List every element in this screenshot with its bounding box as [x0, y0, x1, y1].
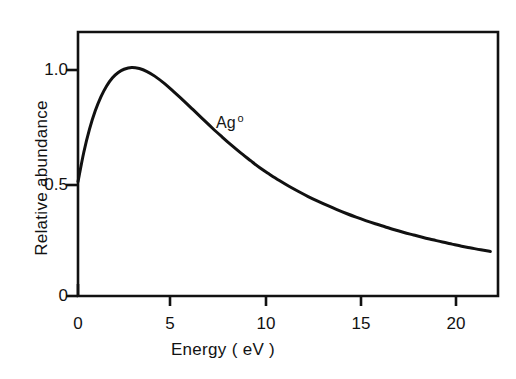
x-tick-label-10: 10 — [246, 314, 286, 334]
x-axis-title: Energy ( eV ) — [118, 340, 328, 360]
x-tick-label-20: 20 — [436, 314, 476, 334]
series-annotation-symbol: Ag — [216, 114, 236, 131]
series-annotation-ag: Ago — [216, 112, 244, 132]
y-tick-label-0: 0 — [12, 286, 68, 306]
data-series-curve-ag — [78, 67, 490, 251]
y-tick-label-0-5: 0.5 — [12, 175, 68, 195]
plot-frame — [78, 32, 498, 296]
series-annotation-superscript: o — [238, 112, 244, 124]
y-tick-label-1: 1.0 — [12, 60, 68, 80]
x-tick-label-5: 5 — [150, 314, 190, 334]
figure-canvas: Relative abundance Energy ( eV ) 1.0 0.5… — [0, 0, 516, 379]
x-tick-label-15: 15 — [341, 314, 381, 334]
x-tick-label-0: 0 — [58, 314, 98, 334]
